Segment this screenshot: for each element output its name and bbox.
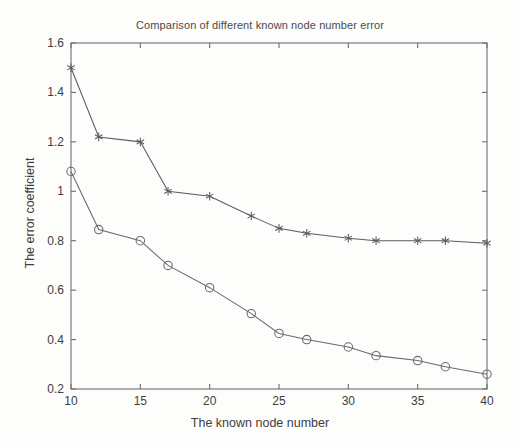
- x-tick-label: 10: [64, 394, 78, 408]
- x-tick-label: 15: [134, 394, 148, 408]
- x-tick-label: 25: [272, 394, 286, 408]
- tick-labels-group: 101520253035400.20.40.60.811.21.41.6: [47, 36, 494, 408]
- data-series-group: [67, 63, 491, 378]
- x-tick-label: 20: [203, 394, 217, 408]
- plot-area: 101520253035400.20.40.60.811.21.41.6: [0, 0, 520, 446]
- y-tick-label: 0.8: [47, 234, 64, 248]
- y-tick-label: 1.2: [47, 135, 64, 149]
- y-axis-label: The error coefficient: [23, 113, 37, 313]
- series-line: [71, 68, 487, 243]
- series-line: [71, 172, 487, 375]
- x-axis-label: The known node number: [0, 416, 520, 430]
- series-upper-series: [67, 63, 490, 247]
- y-tick-label: 1: [57, 184, 64, 198]
- series-lower-series: [67, 167, 491, 378]
- y-tick-label: 0.2: [47, 382, 64, 396]
- chart-figure: Comparison of different known node numbe…: [0, 0, 520, 446]
- y-tick-label: 1.6: [47, 36, 64, 50]
- y-tick-label: 1.4: [47, 85, 64, 99]
- y-tick-label: 0.4: [47, 333, 64, 347]
- x-tick-label: 30: [342, 394, 356, 408]
- x-tick-label: 35: [411, 394, 425, 408]
- y-tick-label: 0.6: [47, 283, 64, 297]
- x-tick-label: 40: [480, 394, 494, 408]
